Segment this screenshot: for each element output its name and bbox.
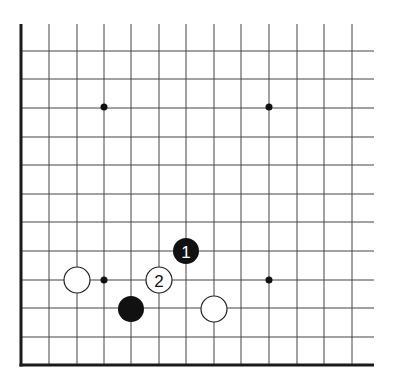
white-stone (201, 296, 227, 322)
board-edges (20, 24, 375, 367)
black-stone (118, 296, 144, 322)
star-point (101, 104, 108, 111)
star-point (266, 277, 273, 284)
white-stone-move-2: 2 (146, 267, 172, 293)
star-point (101, 277, 108, 284)
white-stone (64, 267, 90, 293)
go-board: 21 (0, 0, 396, 384)
star-point (266, 104, 273, 111)
move-number: 1 (181, 243, 190, 262)
black-stone-move-1: 1 (173, 238, 199, 264)
board-grid (21, 24, 374, 365)
move-number: 2 (154, 272, 163, 291)
